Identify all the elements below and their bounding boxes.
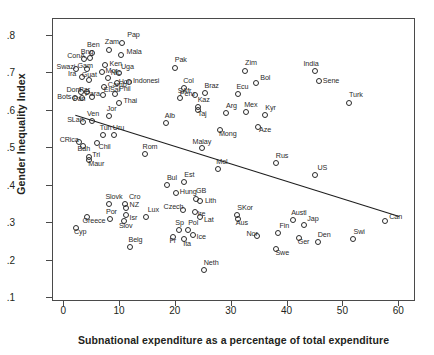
y-tick-label: .6 (0, 104, 15, 115)
data-point-label: Rom (143, 143, 158, 150)
data-point-label: Ecu (236, 83, 248, 90)
data-point-label: Mex (244, 101, 257, 108)
data-point-label: Ira (68, 70, 76, 77)
data-point-label: Braz (204, 82, 218, 89)
data-point (107, 216, 113, 222)
data-point (201, 267, 207, 273)
data-point-label: Turk (349, 91, 363, 98)
data-point (118, 52, 124, 58)
data-point-label: Bul (167, 174, 177, 181)
data-point-label: Pol (188, 219, 198, 226)
data-point (273, 160, 279, 166)
data-point-label: Zam (105, 38, 119, 45)
data-point (316, 78, 322, 84)
data-point-label: Cro (129, 193, 140, 200)
data-point-label: Arg (226, 102, 237, 109)
data-point-label: Neth (204, 259, 219, 266)
data-point (235, 91, 241, 97)
y-tick-label: .8 (0, 29, 15, 40)
data-point-label: Guat (82, 71, 97, 78)
data-point-label: Col (183, 77, 194, 84)
data-point-label: Rus (276, 152, 288, 159)
data-point-label: Hung (180, 188, 197, 195)
data-point (350, 236, 356, 242)
data-point-label: Alb (165, 112, 175, 119)
y-tick-label: .7 (0, 67, 15, 78)
scatter-plot-figure: Gender Inequality Index PapZamMalaBenCon… (0, 0, 434, 355)
data-point (242, 68, 248, 74)
data-point-label: Nor (246, 230, 257, 237)
data-point (100, 132, 106, 138)
data-point-label: Lith (205, 197, 216, 204)
x-tick-label: 10 (99, 305, 139, 316)
data-point-label: US (317, 164, 327, 171)
data-point-label: Bah (78, 145, 91, 152)
x-tick-label: 0 (43, 305, 83, 316)
data-point (106, 201, 112, 207)
data-point-label: Jor (107, 105, 117, 112)
data-point-label: Thai (123, 97, 137, 104)
data-point-label: Tun (100, 124, 112, 131)
data-point-label: Lux (148, 206, 159, 213)
y-tick-mark (46, 185, 52, 186)
data-point-label: Bol (260, 74, 270, 81)
data-point (315, 239, 321, 245)
x-tick-mark (63, 301, 64, 306)
data-point (89, 118, 95, 124)
data-point (253, 80, 259, 86)
x-tick-mark (231, 301, 232, 306)
data-point-label: Slov (119, 222, 133, 229)
data-point (223, 110, 229, 116)
data-point-label: Kyr (265, 104, 275, 111)
data-point (312, 68, 318, 74)
data-point (172, 65, 178, 71)
data-point-label: Swi (353, 228, 364, 235)
data-point-label: Lat (204, 216, 214, 223)
data-point (123, 212, 129, 218)
data-point-label: Austl (291, 209, 306, 216)
y-tick-mark (46, 260, 52, 261)
x-tick-mark (175, 301, 176, 306)
data-point (262, 112, 268, 118)
data-point-label: Den (318, 231, 331, 238)
data-point-label: Ger (298, 238, 310, 245)
data-point (173, 190, 179, 196)
data-point-label: India (303, 60, 318, 67)
data-point-label: Aus (236, 219, 248, 226)
data-point-label: Zim (245, 59, 257, 66)
data-point-label: Tri (92, 151, 100, 158)
plot-area: PapZamMalaBenConABngKenSwaziGamMorUgaZim… (52, 18, 415, 301)
data-point-label: ElSal (104, 86, 120, 93)
data-point (181, 179, 187, 185)
data-point-label: SAfr (178, 87, 192, 94)
data-point-label: Slovk (105, 193, 122, 200)
data-point-label: Can (389, 213, 402, 220)
x-tick-mark (287, 301, 288, 306)
data-point (119, 40, 125, 46)
data-point-label: Phil (119, 85, 131, 92)
data-point-label: Para (85, 90, 100, 97)
x-tick-mark (342, 301, 343, 306)
y-tick-label: .1 (0, 292, 15, 303)
y-tick-label: .2 (0, 254, 15, 265)
data-point (290, 217, 296, 223)
data-point (346, 100, 352, 106)
data-point-label: Mala (127, 48, 142, 55)
x-tick-label: 60 (378, 305, 418, 316)
data-point-label: Por (106, 208, 117, 215)
x-tick-label: 50 (322, 305, 362, 316)
data-point (99, 69, 105, 75)
x-tick-label: 30 (211, 305, 251, 316)
data-point (106, 113, 112, 119)
data-point-label: SKor (237, 204, 253, 211)
data-point (177, 95, 183, 101)
data-point-label: Bng (81, 48, 94, 55)
data-point-label: Aze (259, 126, 271, 133)
data-point-label: Bots (57, 93, 71, 100)
data-point (123, 205, 129, 211)
y-tick-mark (46, 35, 52, 36)
data-point (312, 172, 318, 178)
data-point-label: Sp (175, 219, 184, 226)
y-tick-mark (46, 147, 52, 148)
data-point-label: NZ (130, 201, 139, 208)
